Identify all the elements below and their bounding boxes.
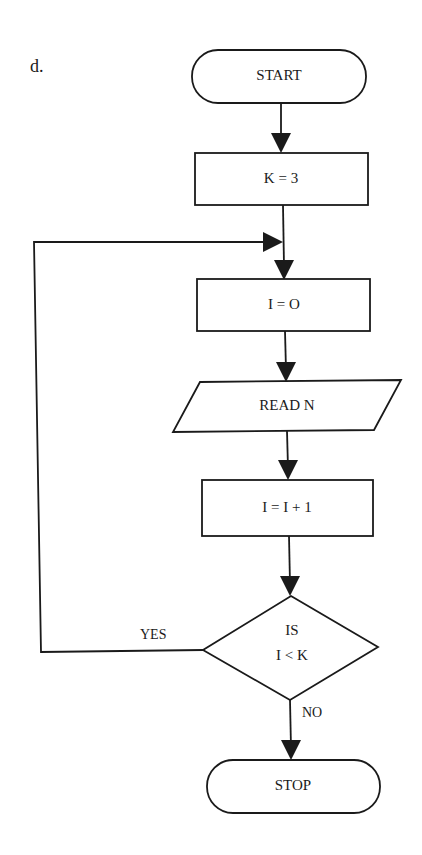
decision-diamond: IS I < K [203,596,378,700]
arrow-decision-to-stop [281,700,301,760]
start-label: START [256,67,301,83]
k-init-box: K = 3 [195,153,368,205]
k-init-label: K = 3 [264,170,298,186]
arrowhead-down-icon [281,740,301,760]
arrow-start-to-k [271,103,291,153]
arrowhead-down-icon [276,362,296,382]
arrow-read-to-increment [278,431,298,480]
arrowhead-down-icon [274,260,294,280]
increment-box: I = I + 1 [202,480,373,536]
arrow-i-to-read [276,331,296,382]
stop-label: STOP [275,777,311,793]
arrowhead-down-icon [271,133,291,153]
start-terminal: START [192,50,366,103]
arrowhead-down-icon [280,576,300,596]
arrowhead-down-icon [278,460,298,480]
flowchart: d. START K = 3 I = O READ N [0,0,422,855]
increment-label: I = I + 1 [262,499,311,515]
i-init-box: I = O [197,279,370,331]
decision-label-line2: I < K [276,647,308,663]
decision-label-line1: IS [285,622,298,638]
part-label: d. [30,56,44,76]
stop-terminal: STOP [207,760,380,813]
read-n-parallelogram: READ N [173,380,401,432]
read-label: READ N [259,397,315,413]
yes-label: YES [140,627,166,642]
arrow-increment-to-decision [280,536,300,596]
arrowhead-right-icon [263,232,283,252]
i-init-label: I = O [268,296,300,312]
no-label: NO [302,705,322,720]
